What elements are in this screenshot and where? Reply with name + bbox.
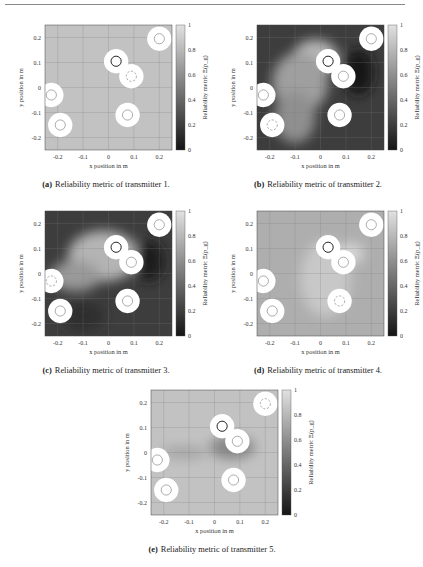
subfigure-caption: (e)Reliability metric of transmitter 5. <box>106 545 318 554</box>
y-tick-label: -0.1 <box>32 296 42 302</box>
x-tick-label: -0.2 <box>53 340 63 346</box>
caption-label: (a) <box>42 180 52 189</box>
caption-text: Reliability metric of transmitter 1. <box>55 180 170 189</box>
colorbar-tick-label: 0.6 <box>294 437 302 443</box>
colorbar <box>388 211 397 336</box>
caption-label: (d) <box>254 366 264 375</box>
y-tick-label: -0.2 <box>244 135 254 141</box>
colorbar-tick-label: 0.2 <box>400 122 408 128</box>
colorbar <box>282 390 291 515</box>
y-tick-label: 0.2 <box>140 400 148 406</box>
colorbar-tick-label: 0.8 <box>294 412 302 418</box>
y-tick-label: -0.2 <box>32 321 42 327</box>
node-marker-normal <box>327 103 351 127</box>
y-tick-label: 0.1 <box>34 60 42 66</box>
y-tick-label: 0 <box>38 271 41 277</box>
colorbar-tick-label: 0.8 <box>188 233 196 239</box>
heatmap-plot-area <box>251 211 384 336</box>
exclusion-zone <box>331 250 355 274</box>
y-tick-label: 0.2 <box>34 221 42 227</box>
colorbar-label: Reliability metric Ξ(p_g) <box>201 241 209 305</box>
colorbar-tick-label: 0.6 <box>188 72 196 78</box>
colorbar-tick-label: 1 <box>188 208 191 214</box>
subfigure-a: -0.2-0.100.10.20.20.10-0.1-0.2x position… <box>0 12 212 197</box>
y-tick-label: 0 <box>250 85 253 91</box>
x-tick-label: -0.1 <box>184 519 194 525</box>
y-tick-label: 0.1 <box>246 246 254 252</box>
node-marker-normal <box>154 478 178 502</box>
caption-label: (c) <box>43 366 52 375</box>
node-marker-normal <box>119 250 143 274</box>
x-tick-label: 0.1 <box>236 519 244 525</box>
x-tick-label: -0.2 <box>53 154 63 160</box>
y-axis-label: y position in m <box>17 68 24 107</box>
x-tick-label: -0.2 <box>159 519 169 525</box>
colorbar-tick-label: 0.4 <box>188 283 196 289</box>
node-marker-normal <box>115 103 139 127</box>
node-marker-normal <box>331 64 355 88</box>
node-marker-normal <box>251 269 275 293</box>
colorbar-tick-label: 0 <box>400 333 403 339</box>
caption-label: (e) <box>149 545 158 554</box>
x-tick-label: 0.2 <box>156 340 164 346</box>
caption-text: Reliability metric of transmitter 3. <box>55 366 170 375</box>
heatmap-plot-area <box>39 25 172 150</box>
x-tick-label: 0 <box>107 340 110 346</box>
caption-label: (b) <box>254 180 264 189</box>
y-tick-label: -0.2 <box>32 135 42 141</box>
colorbar-tick-label: 0.8 <box>400 233 408 239</box>
colorbar-tick-label: 0.2 <box>294 487 302 493</box>
colorbar-tick-label: 0 <box>188 333 191 339</box>
caption-text: Reliability metric of transmitter 4. <box>267 366 382 375</box>
y-tick-label: 0.2 <box>246 35 254 41</box>
node-marker-dashed <box>39 269 63 293</box>
exclusion-zone <box>147 27 171 51</box>
y-tick-label: 0.1 <box>140 425 148 431</box>
x-tick-label: 0 <box>213 519 216 525</box>
node-marker-dashed <box>253 392 277 416</box>
exclusion-zone <box>331 64 355 88</box>
x-tick-label: 0 <box>319 340 322 346</box>
exclusion-zone <box>327 103 351 127</box>
node-marker-normal <box>359 27 383 51</box>
y-tick-label: -0.2 <box>138 500 148 506</box>
x-tick-label: -0.2 <box>265 340 275 346</box>
y-axis-label: y position in m <box>123 433 130 472</box>
x-tick-label: -0.1 <box>78 154 88 160</box>
colorbar-tick-label: 0.6 <box>400 72 408 78</box>
x-tick-label: 0.2 <box>368 154 376 160</box>
x-tick-label: -0.1 <box>290 340 300 346</box>
node-marker-normal <box>48 113 72 137</box>
exclusion-zone <box>359 27 383 51</box>
exclusion-zone <box>48 113 72 137</box>
y-tick-label: -0.1 <box>244 296 254 302</box>
colorbar-tick-label: 0 <box>400 147 403 153</box>
exclusion-zone <box>48 299 72 323</box>
subfigure-e: -0.2-0.100.10.20.20.10-0.1-0.2x position… <box>106 377 318 562</box>
x-axis-label: x position in m <box>301 348 340 355</box>
y-axis-label: y position in m <box>229 254 236 293</box>
y-axis-label: y position in m <box>17 254 24 293</box>
colorbar-tick-label: 0.4 <box>188 97 196 103</box>
node-marker-normal <box>115 289 139 313</box>
subfigure-caption: (b)Reliability metric of transmitter 2. <box>212 180 423 189</box>
header-rule <box>5 4 405 5</box>
x-tick-label: -0.1 <box>78 340 88 346</box>
subfigure-caption: (c)Reliability metric of transmitter 3. <box>0 366 212 375</box>
colorbar <box>176 25 185 150</box>
node-marker-normal <box>260 299 284 323</box>
x-tick-label: 0 <box>107 154 110 160</box>
exclusion-zone <box>145 448 169 472</box>
exclusion-zone <box>154 478 178 502</box>
colorbar-label: Reliability metric Ξ(p_g) <box>413 241 421 305</box>
colorbar-tick-label: 0.6 <box>188 258 196 264</box>
x-tick-label: 0 <box>319 154 322 160</box>
node-marker-normal <box>359 213 383 237</box>
heatmap-plot-area <box>251 25 384 150</box>
node-marker-normal <box>39 83 63 107</box>
colorbar-tick-label: 0.6 <box>400 258 408 264</box>
y-tick-label: 0 <box>38 85 41 91</box>
colorbar-tick-label: 0.8 <box>400 47 408 53</box>
x-axis-label: x position in m <box>195 527 234 534</box>
exclusion-zone <box>359 213 383 237</box>
